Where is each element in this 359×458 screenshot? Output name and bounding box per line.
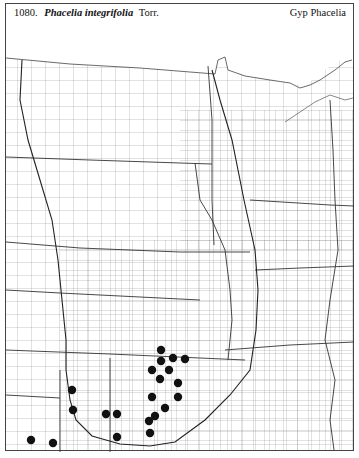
occurrence-dot — [174, 393, 182, 401]
occurrence-dot — [174, 379, 182, 387]
occurrence-dot — [49, 439, 57, 447]
occurrence-dot — [113, 433, 121, 441]
occurrence-dot — [68, 386, 76, 394]
occurrence-dot — [102, 410, 110, 418]
occurrence-dot — [148, 393, 156, 401]
occurrence-dot — [169, 354, 177, 362]
occurrence-dot — [157, 346, 165, 354]
occurrence-dot — [27, 436, 35, 444]
occurrence-dot — [165, 366, 173, 374]
distribution-map — [0, 0, 359, 458]
occurrence-dot — [69, 406, 77, 414]
occurrence-dot — [156, 375, 164, 383]
occurrence-dot — [148, 366, 156, 374]
occurrence-dot — [181, 355, 189, 363]
occurrence-dot — [145, 417, 153, 425]
occurrence-dot — [113, 410, 121, 418]
occurrence-dot — [157, 357, 165, 365]
occurrence-dot — [161, 404, 169, 412]
county-grid — [6, 56, 354, 450]
occurrence-dot — [146, 429, 154, 437]
